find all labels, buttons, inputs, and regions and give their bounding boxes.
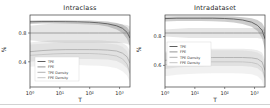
y-axis-label: % (0, 47, 7, 53)
x-axis-label: T (30, 96, 130, 103)
x-axis-label: T (165, 96, 265, 103)
y-tick-label: 0.8 (154, 33, 162, 39)
chart-title: Intraclass (30, 4, 130, 12)
legend-label-tpe: TPE (47, 60, 54, 64)
chart-intradataset: 10⁰10¹10²10³0.80.6TPEFPETPE DensityFPE D… (135, 0, 270, 108)
legend-label-fpe: FPE (180, 50, 186, 54)
legend-label-tpe-density: TPE Density (47, 71, 68, 75)
chart-intraclass: 10⁰10¹10²10³0.80.4TPEFPETPE DensityFPE D… (0, 0, 135, 108)
figure: 10⁰10¹10²10³0.80.4TPEFPETPE DensityFPE D… (0, 0, 270, 108)
legend-label-fpe-density: FPE Density (180, 61, 200, 65)
plot-area: 10⁰10¹10²10³0.80.4TPEFPETPE DensityFPE D… (0, 0, 135, 108)
figure-bottom-rule (0, 104, 270, 105)
legend-label-tpe-density: TPE Density (179, 56, 200, 60)
legend: TPEFPETPE DensityFPE Density (35, 57, 79, 81)
y-tick-label: 0.6 (154, 62, 162, 68)
chart-title: Intradataset (165, 4, 265, 12)
y-tick-label: 0.4 (19, 59, 27, 65)
plot-area: 10⁰10¹10²10³0.80.6TPEFPETPE DensityFPE D… (135, 0, 270, 108)
y-axis-label: % (135, 47, 142, 53)
legend-label-tpe: TPE (179, 45, 186, 49)
legend-label-fpe-density: FPE Density (48, 76, 68, 80)
legend-label-fpe: FPE (48, 65, 54, 69)
series-band-fpe (165, 28, 265, 40)
legend: TPEFPETPE DensityFPE Density (167, 42, 211, 66)
y-tick-label: 0.8 (19, 30, 27, 36)
